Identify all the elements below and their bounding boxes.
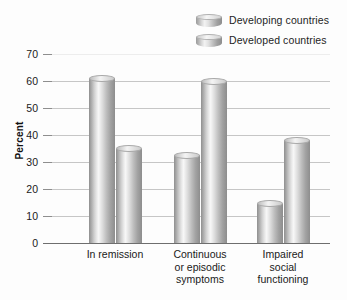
chart-legend: Developing countries Developed countries — [196, 12, 346, 52]
bar-chart-figure: Developing countries Developed countries… — [0, 0, 347, 300]
bar-top-cap — [89, 75, 115, 82]
bar — [116, 149, 142, 244]
legend-label: Developed countries — [229, 34, 327, 47]
y-axis-tick-label: 40 — [14, 129, 38, 141]
legend-label: Developing countries — [229, 14, 329, 27]
plot-area — [52, 54, 330, 243]
bar-body — [174, 155, 200, 243]
x-axis-category-label: Impaired social functioning — [233, 248, 333, 286]
y-axis-tick — [43, 108, 52, 109]
legend-item-developing-countries: Developing countries — [196, 12, 346, 29]
bar — [201, 81, 227, 243]
y-axis-tick-label: 0 — [14, 237, 38, 249]
bar-body — [201, 81, 227, 243]
bar — [284, 140, 310, 243]
y-axis-tick — [43, 189, 52, 190]
bar-top-cap — [201, 78, 227, 85]
bar — [89, 78, 115, 243]
bar-top-cap — [116, 145, 142, 152]
bar — [174, 155, 200, 243]
bar-body — [257, 204, 283, 243]
x-axis-category-labels: In remissionContinuous or episodic sympt… — [52, 248, 330, 298]
bar-body — [284, 140, 310, 243]
bar-body — [116, 149, 142, 244]
y-axis-tick-label: 30 — [14, 156, 38, 168]
gridline — [52, 54, 330, 55]
y-axis-tick-label: 70 — [14, 48, 38, 60]
y-axis-tick-label: 10 — [14, 210, 38, 222]
y-axis-tick-label: 20 — [14, 183, 38, 195]
y-axis-tick-label: 60 — [14, 75, 38, 87]
y-axis-tick-labels: 706050403020100 — [14, 54, 38, 243]
y-axis-tick — [43, 216, 52, 217]
cylinder-swatch-icon — [196, 34, 222, 47]
y-axis-tick — [43, 135, 52, 136]
bar — [257, 204, 283, 243]
cylinder-swatch-icon — [196, 14, 222, 27]
y-axis-tick — [43, 81, 52, 82]
bar-body — [89, 78, 115, 243]
y-axis-tick — [43, 162, 52, 163]
legend-item-developed-countries: Developed countries — [196, 32, 346, 49]
y-axis-tick-label: 50 — [14, 102, 38, 114]
x-axis-line — [43, 243, 330, 244]
bar-top-cap — [174, 152, 200, 159]
bar-top-cap — [284, 137, 310, 144]
y-axis-tick — [43, 54, 52, 55]
